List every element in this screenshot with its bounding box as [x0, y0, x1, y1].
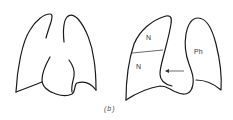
- figure-caption: (b): [104, 105, 116, 112]
- left-panel-right-lung-base: [16, 82, 42, 92]
- right-panel-fissure-line: [132, 50, 163, 53]
- right-panel: [126, 16, 221, 100]
- left-panel-heart-right-border: [69, 60, 74, 92]
- left-panel-heart-left-border: [42, 57, 96, 96]
- label-ph: Ph: [194, 48, 203, 55]
- arrow-icon: [165, 69, 169, 73]
- lung-diagram: [0, 0, 233, 120]
- label-lower-n: N: [136, 63, 141, 70]
- left-panel-left-lung-outline: [63, 15, 96, 90]
- right-panel-right-lung-base: [126, 86, 192, 100]
- right-panel-left-lung-outline: [185, 18, 221, 90]
- left-panel: [16, 14, 96, 96]
- left-panel-right-lung-outline: [16, 14, 52, 92]
- label-upper-n: N: [146, 34, 151, 41]
